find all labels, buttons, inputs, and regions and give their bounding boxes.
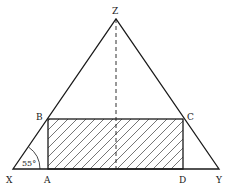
geometry-diagram: 55° Z B C X A D Y — [0, 0, 233, 191]
label-y: Y — [215, 175, 223, 185]
label-z: Z — [112, 6, 118, 16]
label-a: A — [43, 175, 51, 185]
label-d: D — [179, 175, 186, 185]
angle-label-x: 55° — [22, 159, 36, 168]
label-b: B — [36, 112, 43, 122]
label-c: C — [187, 112, 194, 122]
label-x: X — [6, 175, 13, 185]
